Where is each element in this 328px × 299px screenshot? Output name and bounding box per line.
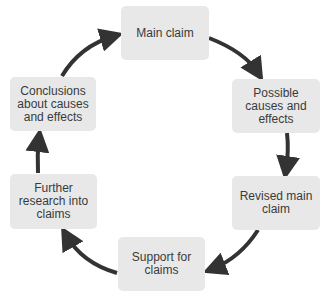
node-label-line: effects — [245, 113, 306, 126]
node-label-line: claims — [19, 208, 88, 221]
node-label-line: claims — [132, 264, 191, 277]
node-main-claim: Main claim — [121, 6, 209, 60]
node-further-research: Further research into claims — [10, 174, 97, 229]
arrow-possible-to-revised — [286, 133, 288, 170]
arrow-conclusions-to-main — [62, 36, 114, 76]
node-label-line: about causes — [17, 98, 88, 111]
arrow-further-to-conclusions — [38, 138, 39, 173]
arrow-main-to-possible — [209, 38, 258, 73]
node-support-for-claims: Support for claims — [118, 237, 205, 291]
node-conclusions: Conclusions about causes and effects — [10, 77, 96, 131]
node-possible-causes: Possible causes and effects — [232, 79, 320, 133]
arrow-revised-to-support — [212, 230, 258, 269]
node-label-line: causes and — [245, 100, 306, 113]
node-label-line: Possible — [245, 87, 306, 100]
node-label-line: Main claim — [136, 27, 193, 40]
node-label-line: and effects — [17, 111, 88, 124]
cycle-diagram: Main claim Possible causes and effects R… — [0, 0, 328, 299]
node-label-line: Conclusions — [17, 85, 88, 98]
node-revised-main-claim: Revised main claim — [232, 176, 320, 230]
node-label-line: claim — [240, 203, 313, 216]
arrow-support-to-further — [66, 235, 117, 273]
